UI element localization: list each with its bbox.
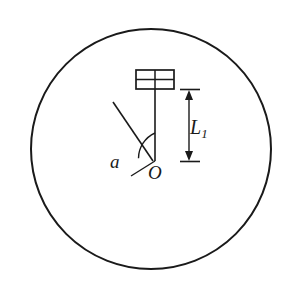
length-label-base: L (190, 116, 201, 138)
physics-diagram-figure: a O L1 (0, 0, 297, 286)
length-label-l1: L1 (190, 117, 208, 140)
diagram-canvas (0, 0, 297, 286)
outer-circle-shape (31, 29, 271, 269)
length-label-subscript: 1 (201, 126, 208, 141)
dimension-arrowhead-down-icon (185, 151, 193, 161)
angle-arc-shape (139, 133, 156, 158)
dimension-arrowhead-up-icon (185, 90, 193, 100)
pivot-point-label: O (148, 163, 162, 182)
angle-label: a (110, 152, 120, 171)
